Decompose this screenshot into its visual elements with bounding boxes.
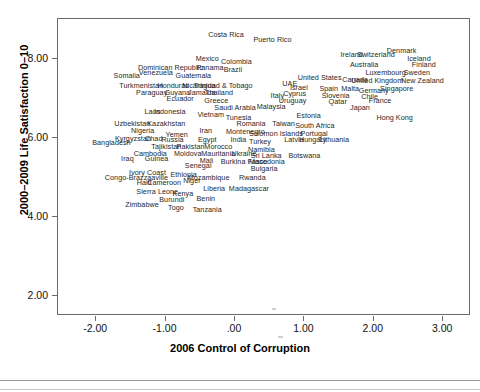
y-axis-tick-label: 4.00 (28, 210, 48, 222)
data-point-label: Mexico (196, 55, 219, 63)
x-axis-tick-label: 1.00 (293, 322, 313, 334)
data-point-label: Iran (200, 127, 213, 135)
data-point-label: Rwanda (239, 174, 266, 182)
data-point-label: Togo (168, 204, 184, 212)
data-point-label: Singapore (380, 85, 413, 93)
x-axis-tick-mark (95, 316, 96, 321)
data-point-label: Bulgaria (251, 165, 278, 173)
plot-area: Costa RicaPuerto RicoDenmarkIrelandSwitz… (58, 19, 469, 314)
scan-speck (272, 308, 276, 310)
plot-frame: Costa RicaPuerto RicoDenmarkIrelandSwitz… (57, 18, 470, 315)
data-point-label: Taiwan (272, 120, 295, 128)
data-point-label: France (369, 97, 392, 105)
page-edge-rule-secondary (0, 389, 480, 390)
y-axis-tick-mark (52, 216, 57, 217)
data-point-label: Vietnam (197, 111, 224, 119)
data-point-label: Venezuela (139, 69, 173, 77)
data-point-label: Qatar (329, 98, 347, 106)
data-point-label: Guinea (145, 155, 168, 163)
data-point-label: Moldova (174, 150, 202, 158)
data-point-label: Benin (197, 195, 216, 203)
y-axis-tick-mark (52, 295, 57, 296)
x-axis-tick-label: -2.00 (83, 322, 107, 334)
data-point-label: Somalia (114, 72, 140, 80)
data-point-label: Senegal (185, 162, 212, 170)
x-axis-tick-label: -1.00 (153, 322, 177, 334)
data-point-label: Bangladesh (92, 139, 130, 147)
x-axis-title: 2006 Control of Corruption (0, 342, 480, 354)
page-edge-rule (0, 380, 480, 381)
data-point-label: Liberia (203, 185, 225, 193)
x-axis-tick-mark (442, 316, 443, 321)
data-point-label: Switzerland (357, 51, 395, 59)
data-point-label: Ecuador (167, 95, 194, 103)
data-point-label: Niger (183, 177, 200, 185)
data-point-label: Paraguay (136, 89, 167, 97)
scan-speck (278, 336, 283, 338)
y-axis-tick-mark (52, 58, 57, 59)
data-point-label: Lithuania (319, 136, 349, 144)
data-point-label: Brazil (224, 66, 242, 74)
data-point-label: Guatemala (176, 72, 212, 80)
data-point-label: Indonesia (154, 108, 186, 116)
x-axis-tick-label: .00 (227, 322, 242, 334)
data-point-label: Costa Rica (208, 31, 244, 39)
data-point-label: United States (298, 74, 342, 82)
y-axis-tick-label: 6.00 (28, 131, 48, 143)
data-point-label: Japan (350, 104, 370, 112)
x-axis-tick-mark (165, 316, 166, 321)
data-point-label: Estonia (296, 112, 320, 120)
data-point-label: Zimbabwe (125, 201, 159, 209)
scatter-plot-figure: Costa RicaPuerto RicoDenmarkIrelandSwitz… (0, 0, 480, 392)
data-point-label: Puerto Rico (253, 36, 291, 44)
x-axis-tick-label: 2.00 (363, 322, 383, 334)
data-point-label: Cameroon (147, 179, 181, 187)
data-point-label: Iraq (121, 155, 134, 163)
y-axis-tick-mark (52, 137, 57, 138)
y-axis-tick-label: 2.00 (28, 289, 48, 301)
data-point-label: Madagascar (229, 185, 269, 193)
data-point-label: India (231, 136, 247, 144)
data-point-label: Malaysia (257, 103, 286, 111)
data-point-label: Botswana (288, 152, 320, 160)
x-axis-tick-mark (373, 316, 374, 321)
data-point-label: Hong Kong (376, 114, 412, 122)
x-axis-tick-mark (234, 316, 235, 321)
x-axis-tick-mark (303, 316, 304, 321)
data-point-label: Tanzania (193, 206, 222, 214)
y-axis-tick-label: 8.00 (28, 52, 48, 64)
y-axis-title: 2000–2009 Life Satisfaction 0–10 (18, 0, 30, 270)
x-axis-tick-label: 3.00 (432, 322, 452, 334)
